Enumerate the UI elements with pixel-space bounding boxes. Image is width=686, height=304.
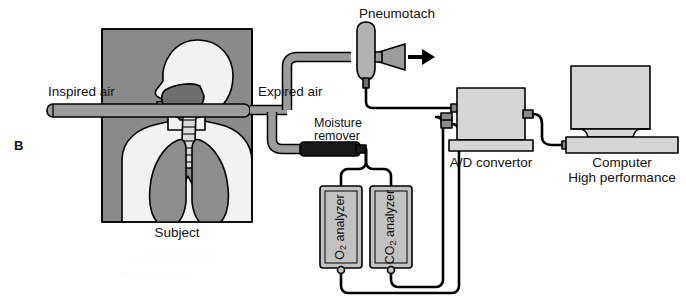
moisture-remover — [300, 142, 366, 156]
co2-analyzer-label-main: CO — [383, 245, 397, 264]
subject-label: Subject — [154, 225, 199, 240]
pneumotach-body — [357, 22, 375, 80]
svg-text:. . . . . . . . . . . .: . . . . . . . . . . . . — [120, 263, 190, 275]
svg-text:. . . . . . . . . . . . . .: . . . . . . . . . . . . . . — [128, 251, 211, 263]
inspired-air-label: Inspired air — [48, 84, 115, 99]
subject-panel — [102, 29, 252, 227]
sample-line-to-co2 — [366, 149, 391, 186]
ad-convertor-label: A/D convertor — [450, 155, 533, 170]
moisture-remover-body — [300, 142, 360, 156]
ad-convertor-body — [457, 88, 525, 140]
metabolic-system-diagram: . . . . . . . . . . . . . . . . . . . . … — [0, 0, 686, 304]
pneumotach-outlet-flare — [379, 44, 405, 70]
moisture-remover-label-line2: remover — [314, 129, 360, 143]
inspired-air-tube — [47, 104, 250, 117]
pneumotach — [357, 22, 405, 88]
inspired-tube-body — [47, 104, 250, 117]
co2-analyzer-port — [388, 267, 395, 274]
computer-monitor-neck — [571, 129, 650, 137]
computer — [566, 66, 678, 153]
computer-monitor — [571, 66, 650, 129]
ad-convertor — [449, 88, 533, 151]
o2-analyzer-label-main: O — [333, 250, 347, 260]
pneumotach-label: Pneumotach — [359, 6, 435, 21]
page-bleed-through: . . . . . . . . . . . . . . . . . . . . … — [120, 239, 214, 275]
pneumotach-port — [363, 78, 369, 88]
moisture-remover-outlet — [356, 145, 366, 153]
ad-to-computer-cable — [533, 114, 566, 145]
figure-container: . . . . . . . . . . . . . . . . . . . . … — [0, 0, 686, 304]
co2-analyzer-label-tail: analyzer — [383, 190, 397, 241]
computer-label-line1: Computer — [592, 155, 652, 170]
o2-connector — [441, 120, 452, 128]
computer-label-line2: High performance — [568, 170, 675, 185]
o2-analyzer-port — [338, 267, 345, 274]
pneumotach-signal-wire — [366, 88, 457, 108]
panel-letter: B — [14, 138, 23, 153]
svg-text:CO2 analyzer: CO2 analyzer — [383, 190, 398, 265]
expired-air-label: Expired air — [258, 84, 323, 99]
ad-convertor-output-port — [523, 110, 533, 118]
svg-text:. . . . . . . . . . .: . . . . . . . . . . . — [150, 239, 214, 251]
ad-convertor-base — [449, 140, 533, 151]
computer-base — [566, 137, 678, 153]
airflow-arrow-icon — [408, 49, 435, 65]
co2-analyzer-label-group: CO2 analyzer — [383, 190, 398, 265]
moisture-remover-label-line1: Moisture — [314, 116, 362, 130]
o2-analyzer-label-tail: analyzer — [333, 194, 347, 245]
